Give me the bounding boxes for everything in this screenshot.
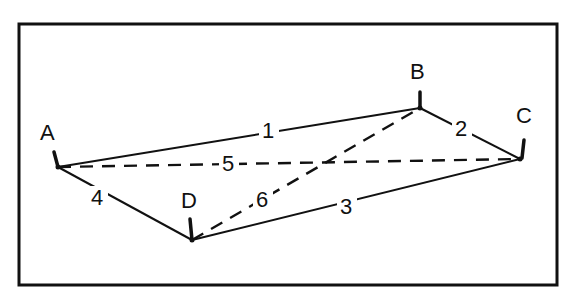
diagram-frame: [19, 24, 557, 285]
nodes-group: ABCD: [40, 59, 532, 243]
node-marker-d: [190, 219, 192, 240]
edges-group: [58, 108, 520, 240]
edge-label-3: 3: [340, 194, 352, 219]
node-label-c: C: [516, 103, 532, 128]
edge-label-1: 1: [262, 118, 274, 143]
edge-label-2: 2: [455, 116, 467, 141]
network-diagram: 123456 ABCD: [0, 0, 572, 296]
edge-a-c: [58, 159, 520, 167]
node-label-b: B: [410, 59, 425, 84]
node-marker-c: [522, 140, 524, 158]
node-label-d: D: [181, 188, 197, 213]
edge-label-6: 6: [256, 187, 268, 212]
edge-a-d: [58, 167, 192, 240]
node-point-c: [518, 157, 523, 162]
edge-label-4: 4: [91, 185, 103, 210]
edge-label-5: 5: [222, 151, 234, 176]
node-point-d: [190, 238, 195, 243]
node-point-a: [56, 165, 61, 170]
node-point-b: [418, 106, 423, 111]
node-label-a: A: [40, 120, 55, 145]
